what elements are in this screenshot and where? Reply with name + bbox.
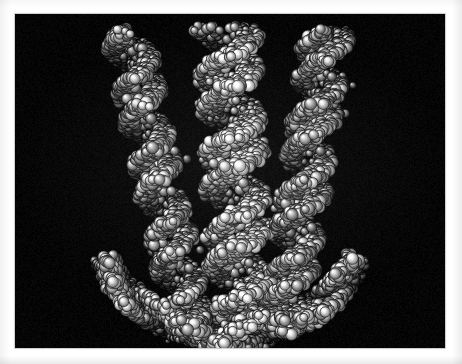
photo-print: Black and white photograph of a space-fi… bbox=[0, 0, 462, 364]
photograph-plate: Black and white photograph of a space-fi… bbox=[15, 14, 445, 348]
molecular-model-image bbox=[15, 14, 445, 348]
